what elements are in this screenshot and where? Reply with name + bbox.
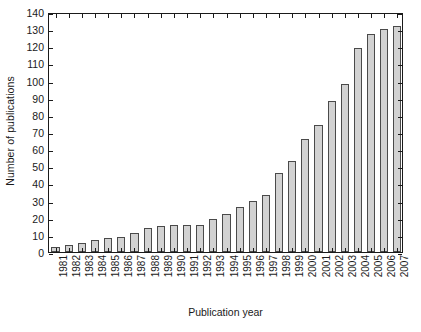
axis-tick-mark: [240, 248, 241, 252]
axis-tick-mark: [398, 100, 402, 101]
y-axis-title-text: Number of publications: [4, 76, 16, 186]
x-tick-label: 1984: [98, 255, 108, 277]
x-tick-label: 1996: [256, 255, 266, 277]
x-tick-label: 1983: [85, 255, 95, 277]
axis-tick-mark: [227, 14, 228, 18]
axis-tick-mark: [371, 14, 372, 18]
axis-tick-mark: [213, 14, 214, 18]
axis-tick-mark: [95, 248, 96, 252]
y-tick-label: 20: [32, 213, 44, 224]
axis-tick-mark: [345, 248, 346, 252]
y-tick-label: 30: [32, 196, 44, 207]
axis-tick-mark: [187, 14, 188, 18]
axis-tick-mark: [187, 248, 188, 252]
x-axis-tick-labels: 1981198219831984198519861987198819891990…: [48, 255, 403, 303]
axis-tick-mark: [56, 248, 57, 252]
axis-tick-mark: [49, 185, 53, 186]
axis-tick-mark: [371, 248, 372, 252]
bar: [236, 207, 244, 252]
y-tick-label: 120: [26, 42, 44, 53]
y-tick-label: 50: [32, 162, 44, 173]
axis-tick-mark: [69, 14, 70, 18]
y-tick-label: 90: [32, 93, 44, 104]
x-tick-label: 2003: [348, 255, 358, 277]
bar: [275, 173, 283, 252]
y-axis-tick-labels: 0102030405060708090100110120130140: [18, 13, 44, 253]
bar: [393, 26, 401, 252]
x-tick-label: 1981: [59, 255, 69, 277]
x-tick-label: 2007: [400, 255, 410, 277]
axis-tick-mark: [49, 48, 53, 49]
axis-tick-mark: [95, 14, 96, 18]
axis-tick-mark: [49, 65, 53, 66]
x-tick-label: 1987: [137, 255, 147, 277]
axis-tick-mark: [397, 14, 398, 18]
axis-tick-mark: [398, 48, 402, 49]
axis-tick-mark: [398, 220, 402, 221]
x-tick-label: 1982: [72, 255, 82, 277]
axis-tick-mark: [398, 185, 402, 186]
axis-tick-mark: [49, 31, 53, 32]
axis-tick-mark: [200, 14, 201, 18]
bar: [288, 161, 296, 252]
y-tick-label: 10: [32, 231, 44, 242]
axis-tick-mark: [384, 14, 385, 18]
axis-tick-mark: [108, 14, 109, 18]
publication-year-bar-chart: Number of publications 01020304050607080…: [0, 0, 421, 332]
x-tick-label: 1992: [203, 255, 213, 277]
axis-tick-mark: [49, 151, 53, 152]
bars-layer: [49, 14, 402, 252]
axis-tick-mark: [161, 248, 162, 252]
axis-tick-mark: [398, 168, 402, 169]
axis-tick-mark: [174, 14, 175, 18]
axis-tick-mark: [49, 168, 53, 169]
x-tick-label: 1988: [151, 255, 161, 277]
axis-tick-mark: [305, 14, 306, 18]
axis-tick-mark: [398, 65, 402, 66]
x-tick-label: 2004: [361, 255, 371, 277]
x-tick-label: 2005: [374, 255, 384, 277]
bar: [341, 84, 349, 252]
axis-tick-mark: [398, 203, 402, 204]
axis-tick-mark: [213, 248, 214, 252]
axis-tick-mark: [82, 14, 83, 18]
axis-tick-mark: [292, 14, 293, 18]
x-tick-label: 1985: [111, 255, 121, 277]
x-axis-title: Publication year: [48, 306, 403, 318]
x-tick-label: 1991: [190, 255, 200, 277]
axis-tick-mark: [398, 83, 402, 84]
x-tick-label: 1997: [269, 255, 279, 277]
axis-tick-mark: [345, 14, 346, 18]
axis-tick-mark: [56, 14, 57, 18]
bar: [314, 125, 322, 252]
axis-tick-mark: [279, 14, 280, 18]
x-tick-label: 1989: [164, 255, 174, 277]
axis-tick-mark: [358, 14, 359, 18]
bar: [354, 48, 362, 252]
axis-tick-mark: [148, 248, 149, 252]
axis-tick-mark: [69, 248, 70, 252]
axis-tick-mark: [82, 248, 83, 252]
x-tick-label: 2002: [335, 255, 345, 277]
axis-tick-mark: [398, 117, 402, 118]
x-tick-label: 1995: [243, 255, 253, 277]
x-tick-label: 1993: [216, 255, 226, 277]
axis-tick-mark: [358, 248, 359, 252]
x-tick-label: 1999: [295, 255, 305, 277]
axis-tick-mark: [292, 248, 293, 252]
y-tick-label: 100: [26, 76, 44, 87]
x-tick-label: 2006: [387, 255, 397, 277]
axis-tick-mark: [253, 14, 254, 18]
x-tick-label: 2000: [308, 255, 318, 277]
plot-area: [48, 13, 403, 253]
axis-tick-mark: [49, 203, 53, 204]
axis-tick-mark: [200, 248, 201, 252]
x-tick-label: 1990: [177, 255, 187, 277]
x-tick-label: 1998: [282, 255, 292, 277]
axis-tick-mark: [49, 83, 53, 84]
y-axis-title: Number of publications: [0, 0, 20, 262]
axis-tick-mark: [121, 14, 122, 18]
axis-tick-mark: [49, 134, 53, 135]
x-tick-label: 1986: [124, 255, 134, 277]
axis-tick-mark: [398, 151, 402, 152]
